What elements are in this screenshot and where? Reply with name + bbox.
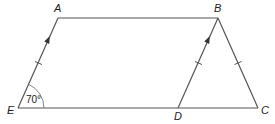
parallel-arrow-icon [44, 35, 52, 44]
vertex-label-d: D [174, 110, 182, 122]
vertex-label-a: A [53, 2, 61, 14]
angle-label-e: 70° [26, 94, 41, 105]
parallel-arrow-icon [204, 35, 212, 44]
vertex-label-b: B [214, 2, 221, 14]
vertex-label-e: E [7, 104, 15, 116]
vertex-label-c: C [261, 104, 269, 116]
geometry-diagram: 70° A B C D E [0, 0, 275, 124]
